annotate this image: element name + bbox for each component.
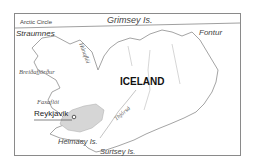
label-arctic-circle: Arctic Circle	[20, 19, 52, 25]
label-fontur: Fontur	[199, 29, 222, 37]
map-title: ICELAND	[120, 77, 164, 87]
label-reykjavik: Reykjavik	[34, 110, 68, 118]
label-grimsey: Grimsey Is.	[107, 16, 153, 25]
label-breidafjordur: Breiðafjörður	[19, 69, 55, 76]
label-faxafloi: Faxaflói	[37, 99, 59, 106]
label-heimaey: Heimaey Is.	[58, 138, 98, 146]
reykjavik-marker	[72, 115, 76, 119]
label-surtsey: Surtsey Is.	[100, 148, 135, 156]
label-straumnes: Straumnes	[16, 30, 55, 38]
